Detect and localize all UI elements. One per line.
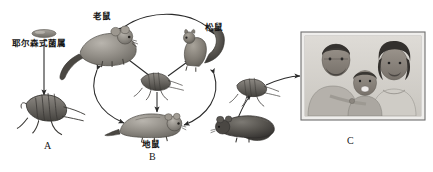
bacteria-label: 耶尔森式菌属 xyxy=(12,39,66,48)
edge-flea-right-to-humans xyxy=(266,76,300,85)
yersinia-bacterium-icon xyxy=(32,30,56,38)
gopher-icon xyxy=(105,113,186,142)
edge-rat-squirrel xyxy=(124,14,214,34)
gopher-label: 地鼠 xyxy=(142,140,160,149)
flea-a-icon xyxy=(17,93,85,135)
item-c-label: C xyxy=(347,136,354,146)
edge-rat-gopher xyxy=(94,70,124,123)
item-b-label: B xyxy=(149,152,156,162)
edge-rat-right-to-flea-right xyxy=(238,95,251,118)
item-a-label: A xyxy=(44,141,51,151)
squirrel-label: 松鼠 xyxy=(205,23,223,32)
squirrel-icon xyxy=(183,28,224,72)
rat-label: 老鼠 xyxy=(93,12,111,21)
family-photograph xyxy=(301,32,425,120)
rat-right-icon xyxy=(211,116,275,143)
edge-squirrel-gopher xyxy=(184,74,216,125)
flea-middle-icon xyxy=(134,72,184,100)
edge-layer xyxy=(44,14,300,125)
rat-icon xyxy=(60,26,138,80)
